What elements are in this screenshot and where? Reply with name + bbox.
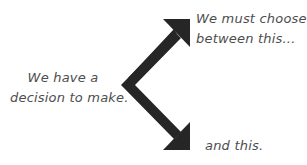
decision-label-line-1: We have a	[10, 68, 116, 88]
option-top-line-1: We must choose	[196, 9, 300, 29]
decision-label: We have a decision to make.	[10, 68, 116, 108]
option-top-line-2: between this...	[196, 29, 300, 49]
option-bottom-line-1: and this.	[205, 136, 259, 156]
decision-label-line-2: decision to make.	[10, 88, 116, 108]
chevron-body	[121, 31, 181, 139]
decision-diagram: We have a decision to make. We must choo…	[0, 0, 307, 165]
option-top-label: We must choose between this...	[196, 9, 300, 49]
option-bottom-label: and this.	[205, 136, 259, 156]
